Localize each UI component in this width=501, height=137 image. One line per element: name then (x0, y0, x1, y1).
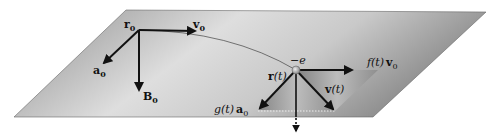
label-g-t-a0: g(t)a0 (214, 103, 248, 118)
label-v-t: v(t) (324, 83, 344, 96)
electron-icon (292, 66, 300, 74)
electron-trajectory-diagram: r0 v0 a0 B0 −e r(t) v(t) f(t)v0 g(t)a0 (0, 0, 501, 137)
label-r-t: r(t) (268, 70, 287, 83)
label-electron: −e (290, 54, 306, 67)
plane (14, 10, 486, 117)
v0-arrow (139, 30, 195, 31)
